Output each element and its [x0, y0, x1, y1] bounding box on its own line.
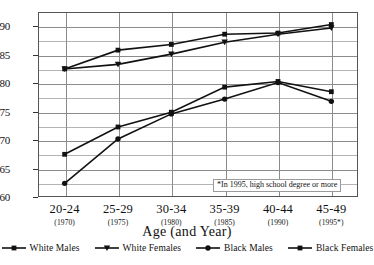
- legend-label: White Females: [123, 243, 182, 253]
- data-point-marker: [329, 89, 334, 94]
- x-axis-age-label: 45-49: [296, 202, 366, 217]
- data-point-marker: [116, 48, 121, 53]
- data-point-marker: [276, 79, 281, 84]
- legend-marker-glyph: [205, 245, 210, 250]
- series-black-males: [62, 80, 334, 186]
- data-point-marker: [222, 96, 227, 101]
- data-point-marker: [169, 42, 174, 47]
- data-point-marker: [62, 152, 67, 157]
- legend-item-white-males[interactable]: White Males: [1, 243, 80, 253]
- y-axis-tick-label: 0.80: [0, 77, 10, 89]
- data-point-marker: [62, 181, 67, 186]
- y-axis-tick-label: 0.90: [0, 20, 10, 32]
- legend-marker-icon: [195, 243, 221, 253]
- legend-marker-icon: [287, 243, 313, 253]
- series-white-males: [62, 22, 333, 71]
- series-white-females: [61, 25, 334, 72]
- legend-marker-glyph: [11, 246, 16, 251]
- series-line: [65, 25, 332, 69]
- legend-item-black-females[interactable]: Black Females: [287, 243, 374, 253]
- y-axis-tick-label: 0.75: [0, 106, 10, 118]
- chart-container: 0.600.650.700.750.800.850.90 20-24(1970)…: [0, 0, 374, 265]
- series-line: [65, 81, 332, 154]
- data-point-marker: [222, 85, 227, 90]
- legend-marker-icon: [94, 243, 120, 253]
- legend-label: Black Males: [224, 243, 273, 253]
- legend-item-white-females[interactable]: White Females: [94, 243, 182, 253]
- y-axis-tick-label: 0.60: [0, 191, 10, 203]
- footnote-annotation: *In 1995, high school degree or more: [213, 179, 341, 192]
- data-point-marker: [169, 110, 174, 115]
- legend-label: Black Females: [316, 243, 374, 253]
- x-axis-title: Age (and Year): [0, 224, 374, 240]
- y-axis-tick-label: 0.85: [0, 49, 10, 61]
- legend-item-black-males[interactable]: Black Males: [195, 243, 273, 253]
- data-point-marker: [115, 136, 120, 141]
- data-point-marker: [222, 32, 227, 37]
- data-series-layer: [38, 12, 358, 197]
- data-point-marker: [116, 125, 121, 130]
- y-axis-tick-mark: [33, 197, 38, 198]
- chart-legend: White MalesWhite FemalesBlack MalesBlack…: [0, 243, 374, 253]
- legend-marker-glyph: [298, 246, 303, 251]
- y-axis-tick-label: 0.65: [0, 163, 10, 175]
- legend-label: White Males: [30, 243, 80, 253]
- series-line: [65, 28, 332, 69]
- legend-marker-icon: [1, 243, 27, 253]
- y-axis-tick-label: 0.70: [0, 134, 10, 146]
- series-black-females: [62, 79, 333, 157]
- data-point-marker: [329, 99, 334, 104]
